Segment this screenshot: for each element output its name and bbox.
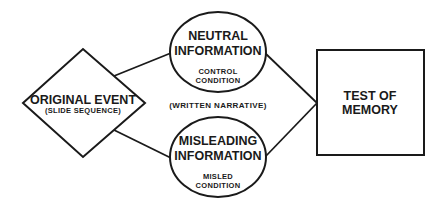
neutral-title-line2: INFORMATION (174, 44, 261, 58)
misleading-information-node: MISLEADING INFORMATION MISLED CONDITION (170, 117, 266, 197)
edge-neutral-to-test (265, 53, 317, 103)
written-narrative-label: (WRITTEN NARRATIVE) (169, 101, 267, 110)
misleading-title-line2: INFORMATION (174, 149, 261, 163)
misleading-title-line1: MISLEADING (179, 134, 257, 148)
original-event-subtitle: (SLIDE SEQUENCE) (45, 106, 121, 115)
neutral-sub-line2: CONDITION (196, 76, 241, 85)
neutral-information-node: NEUTRAL INFORMATION CONTROL CONDITION (170, 12, 266, 92)
neutral-title-line1: NEUTRAL (188, 29, 248, 43)
original-event-title: ORIGINAL EVENT (30, 93, 136, 107)
neutral-sub-line1: CONTROL (198, 67, 237, 76)
misleading-sub-line2: CONDITION (196, 181, 241, 190)
test-title-line1: TEST OF (344, 89, 397, 103)
original-event-node: ORIGINAL EVENT (SLIDE SEQUENCE) (23, 49, 145, 157)
misleading-sub-line1: MISLED (203, 172, 233, 181)
edge-event-to-misleading (114, 130, 171, 158)
test-title-line2: MEMORY (342, 103, 398, 117)
memory-experiment-diagram: ORIGINAL EVENT (SLIDE SEQUENCE) NEUTRAL … (0, 0, 443, 208)
edge-event-to-neutral (114, 53, 171, 76)
edge-misleading-to-test (265, 103, 317, 157)
test-of-memory-node: TEST OF MEMORY (317, 50, 424, 155)
